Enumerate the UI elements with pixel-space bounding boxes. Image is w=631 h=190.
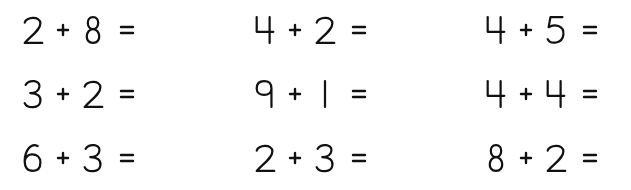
addition-worksheet	[0, 0, 631, 190]
addition-problem	[20, 10, 138, 50]
addition-problem	[483, 74, 601, 114]
equals-sign	[579, 151, 601, 165]
addition-problem	[483, 10, 601, 50]
addition-problem	[252, 138, 370, 178]
addend-a	[252, 142, 278, 174]
addend-b	[312, 14, 338, 46]
addend-b	[80, 78, 106, 110]
addend-b	[543, 78, 569, 110]
equals-sign	[348, 23, 370, 37]
addend-a	[20, 14, 46, 46]
plus-sign	[46, 23, 80, 37]
plus-sign	[509, 87, 543, 101]
equals-sign	[348, 151, 370, 165]
plus-sign	[509, 151, 543, 165]
addition-problem	[252, 74, 370, 114]
plus-sign	[278, 23, 312, 37]
addend-b	[312, 142, 338, 174]
addition-problem	[20, 74, 138, 114]
addend-a	[483, 78, 509, 110]
addend-b	[80, 142, 106, 174]
plus-sign	[278, 87, 312, 101]
addend-a	[483, 142, 509, 174]
addition-problem	[20, 138, 138, 178]
addition-problem	[252, 10, 370, 50]
addend-b	[543, 142, 569, 174]
plus-sign	[278, 151, 312, 165]
equals-sign	[579, 87, 601, 101]
addend-a	[483, 14, 509, 46]
equals-sign	[116, 23, 138, 37]
addend-a	[20, 78, 46, 110]
addend-b	[80, 14, 106, 46]
addition-problem	[483, 138, 601, 178]
equals-sign	[348, 87, 370, 101]
addend-a	[20, 142, 46, 174]
plus-sign	[46, 151, 80, 165]
addend-b	[543, 14, 569, 46]
plus-sign	[46, 87, 80, 101]
equals-sign	[579, 23, 601, 37]
equals-sign	[116, 87, 138, 101]
addend-a	[252, 14, 278, 46]
equals-sign	[116, 151, 138, 165]
addend-b	[312, 78, 338, 110]
plus-sign	[509, 23, 543, 37]
addend-a	[252, 78, 278, 110]
